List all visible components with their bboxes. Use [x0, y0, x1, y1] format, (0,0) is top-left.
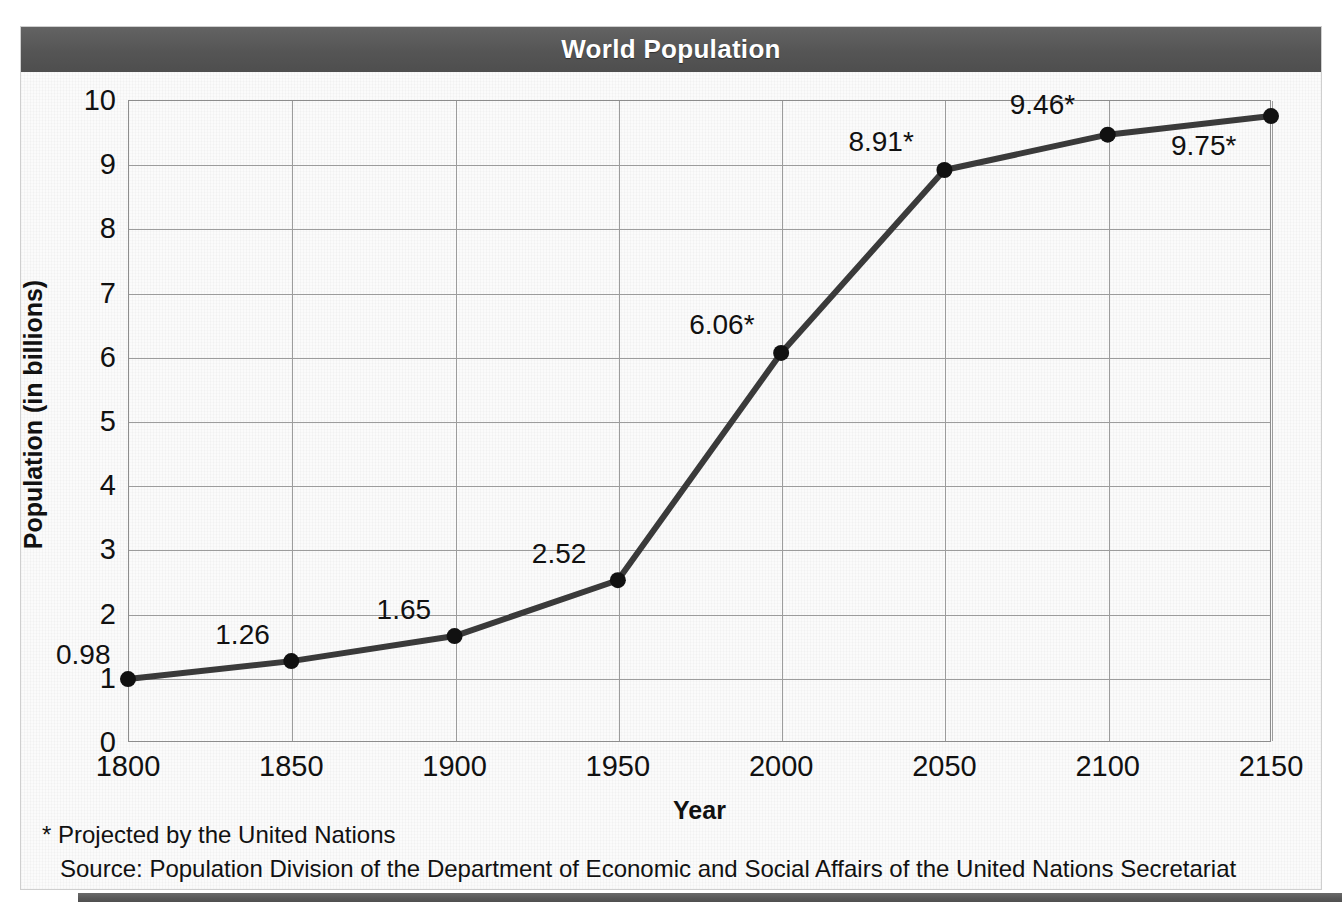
x-axis-tick-label: 2050	[912, 752, 977, 781]
data-point-label: 8.91*	[848, 128, 913, 156]
y-axis-tick-label: 5	[56, 407, 116, 436]
y-axis-title: Population (in billions)	[19, 250, 48, 580]
x-axis-tick-label: 2000	[749, 752, 814, 781]
y-axis-tick-label: 7	[56, 278, 116, 307]
data-point-marker	[610, 572, 626, 588]
series-line	[128, 116, 1271, 679]
data-point-marker	[283, 653, 299, 669]
y-axis-tick-label: 9	[56, 150, 116, 179]
y-axis-tick-label: 3	[56, 535, 116, 564]
x-axis-ticks: 18001850190019502000205021002150	[128, 752, 1271, 788]
chart-title-bar: World Population	[21, 27, 1321, 72]
y-axis-tick-label: 2	[56, 599, 116, 628]
data-point-marker	[773, 345, 789, 361]
x-axis-tick-label: 1850	[259, 752, 324, 781]
data-point-marker	[447, 628, 463, 644]
data-point-label: 0.98	[56, 641, 111, 669]
data-point-label: 6.06*	[689, 311, 754, 339]
data-point-label: 2.52	[532, 540, 587, 568]
data-point-marker	[120, 671, 136, 687]
chart-title: World Population	[561, 34, 781, 65]
bottom-rule	[78, 893, 1342, 902]
data-point-label: 1.26	[215, 621, 270, 649]
y-axis-tick-label: 8	[56, 214, 116, 243]
chart-figure: World Population 109876543210 1800185019…	[0, 0, 1343, 917]
y-axis-tick-label: 6	[56, 342, 116, 371]
data-point-marker	[1100, 127, 1116, 143]
gridline-vertical	[1272, 101, 1273, 741]
source-note: Source: Population Division of the Depar…	[42, 852, 1302, 886]
x-axis-tick-label: 2150	[1239, 752, 1304, 781]
footnotes: * Projected by the United Nations Source…	[42, 818, 1302, 886]
population-line-series	[128, 100, 1271, 742]
y-axis-tick-label: 10	[56, 86, 116, 115]
projection-note: * Projected by the United Nations	[42, 818, 1302, 852]
y-axis-tick-label: 4	[56, 471, 116, 500]
data-point-label: 9.75*	[1171, 132, 1236, 160]
x-axis-tick-label: 1950	[586, 752, 651, 781]
x-axis-tick-label: 2100	[1075, 752, 1140, 781]
data-point-marker	[936, 162, 952, 178]
data-point-label: 1.65	[377, 596, 432, 624]
x-axis-tick-label: 1900	[422, 752, 487, 781]
x-axis-tick-label: 1800	[96, 752, 161, 781]
data-point-label: 9.46*	[1010, 91, 1075, 119]
data-point-marker	[1263, 108, 1279, 124]
